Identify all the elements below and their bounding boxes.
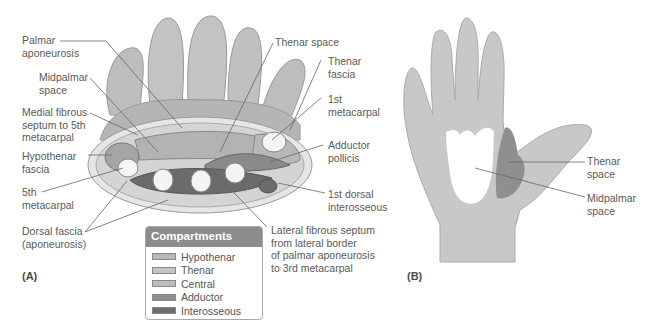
panel-b-label: (B) <box>407 270 422 282</box>
swatch-icon <box>152 280 176 287</box>
label-lateral-fibrous-septum: Lateral fibrous septum from lateral bord… <box>271 224 375 274</box>
label-thenar-space: Thenar space <box>275 36 339 49</box>
legend-item-hypothenar: Hypothenar <box>146 250 262 264</box>
label-thenar-fascia: Thenar fascia <box>328 55 361 80</box>
legend-item-thenar: Thenar <box>146 264 262 278</box>
illustration-canvas <box>0 0 655 328</box>
legend-item-adductor: Adductor <box>146 291 262 305</box>
label-first-dorsal-interosseous: 1st dorsal interosseous <box>328 188 388 213</box>
label-midpalmar-space: Midpalmar space <box>39 71 88 96</box>
label-first-metacarpal: 1st metacarpal <box>328 93 380 118</box>
label-hypothenar-fascia: Hypothenar fascia <box>22 150 76 175</box>
label-adductor-pollicis: Adductor pollicis <box>328 139 370 164</box>
legend-title: Compartments <box>146 227 262 247</box>
label-midpalmar-space-b: Midpalmar space <box>587 192 636 217</box>
label-fifth-metacarpal: 5th metacarpal <box>22 186 74 211</box>
label-medial-fibrous-septum: Medial fibrous septum to 5th metacarpal <box>22 106 87 144</box>
legend-item-interosseous: Interosseous <box>146 304 262 318</box>
legend-item-central: Central <box>146 277 262 291</box>
swatch-icon <box>152 294 176 301</box>
swatch-icon <box>152 253 176 260</box>
hand-diagram-b <box>404 18 592 262</box>
label-thenar-space-b: Thenar space <box>587 155 620 180</box>
label-palmar-aponeurosis: Palmar aponeurosis <box>22 34 79 59</box>
compartments-legend: Compartments Hypothenar Thenar Central A… <box>145 226 263 320</box>
panel-a-label: (A) <box>22 270 37 282</box>
swatch-icon <box>152 307 176 314</box>
swatch-icon <box>152 267 176 274</box>
label-dorsal-fascia: Dorsal fascia (aponeurosis) <box>22 225 86 250</box>
